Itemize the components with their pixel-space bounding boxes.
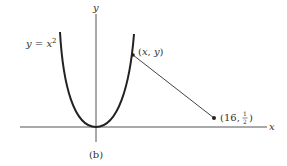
equation-equals: = (32, 38, 47, 49)
point-label-prefix: (16, (220, 112, 240, 123)
curve-equation-label: y = x2 (25, 37, 57, 49)
equation-exponent: 2 (52, 37, 56, 45)
figure-caption: (b) (89, 149, 103, 160)
point-label-close: ) (249, 112, 253, 123)
point-16-half-label: (16, 1 2 ) (220, 110, 253, 125)
point-xy-label: (x, y) (138, 46, 164, 57)
point-16-half-marker (212, 116, 216, 120)
fraction-numerator: 1 (243, 110, 247, 117)
point-xy-marker (131, 53, 135, 57)
distance-segment (133, 55, 214, 118)
parabola-distance-diagram: y x y = x2 (x, y) (16, 1 2 ) (b) (0, 0, 287, 166)
paren-close: ) (160, 46, 164, 57)
y-axis-label: y (92, 2, 99, 13)
x-axis-label: x (269, 121, 275, 132)
parabola-curve (60, 32, 134, 127)
fraction-denominator: 2 (243, 118, 247, 125)
